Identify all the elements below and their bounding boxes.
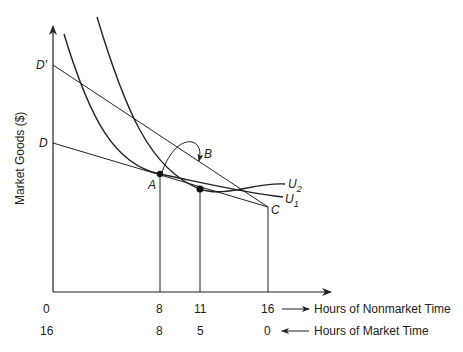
- label-u1: U1: [285, 192, 299, 209]
- tick-nonmarket-11: 11: [194, 302, 207, 316]
- tick-market-5: 5: [197, 324, 204, 338]
- tick-market-16: 16: [40, 324, 54, 338]
- label-d-prime: D′: [36, 58, 48, 72]
- label-d: D: [39, 136, 48, 150]
- tick-market-8: 8: [156, 324, 163, 338]
- tick-nonmarket-16: 16: [261, 302, 275, 316]
- x-axis-label-nonmarket: Hours of Nonmarket Time: [314, 302, 451, 316]
- labor-leisure-diagram: D′ D A B C U2 U1 Market Goods ($) 0 8 11…: [0, 0, 463, 352]
- y-axis-label: Market Goods ($): [13, 112, 27, 205]
- point-b: [197, 186, 204, 193]
- label-c: C: [271, 203, 280, 217]
- label-a: A: [147, 178, 156, 192]
- x-axis-label-market: Hours of Market Time: [314, 324, 429, 338]
- tick-market-0: 0: [264, 324, 271, 338]
- indifference-curve-u2: [97, 17, 285, 192]
- tick-nonmarket-8: 8: [156, 302, 163, 316]
- tick-nonmarket-0: 0: [43, 302, 50, 316]
- point-a: [157, 171, 163, 177]
- label-b: B: [204, 147, 212, 161]
